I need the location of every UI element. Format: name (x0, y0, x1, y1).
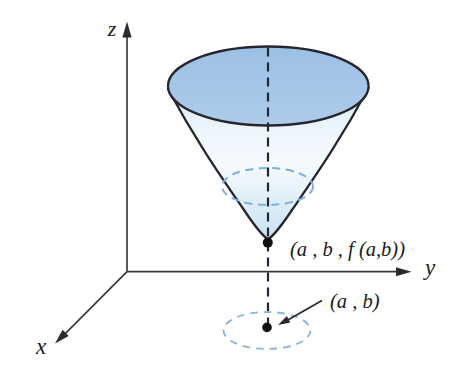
surface-minimum-diagram: z y x (a , b , f (a,b)) (a , b) (0, 0, 469, 377)
x-axis-line (65, 272, 128, 335)
pointer-arrowhead-icon (278, 316, 290, 325)
y-axis-arrowhead-icon (396, 267, 412, 276)
domain-point-label: (a , b) (330, 290, 380, 313)
z-axis-label: z (107, 16, 117, 41)
x-axis-label: x (35, 334, 47, 359)
surface-point-label: (a , b , f (a,b)) (290, 238, 405, 261)
y-axis-label: y (423, 255, 436, 280)
diagram-svg: z y x (a , b , f (a,b)) (a , b) (0, 0, 469, 377)
pointer-arrow-shaft (287, 301, 323, 321)
domain-point-dot (262, 323, 272, 333)
surface-minimum-point-dot (263, 238, 273, 248)
z-axis-arrowhead-icon (122, 22, 131, 38)
